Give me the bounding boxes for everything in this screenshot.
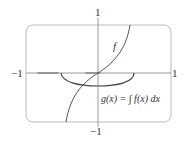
g-formula-prefix: g(x) = [101, 93, 129, 105]
y-max-label: 1 [95, 6, 101, 18]
x-min-label: −1 [11, 67, 23, 79]
g-formula-label: g(x) = ∫ f(x) dx [101, 93, 160, 105]
y-min-label: −1 [90, 125, 102, 137]
x-max-label: 1 [172, 67, 178, 79]
f-label: f [113, 40, 118, 52]
integral-figure: −1 1 1 −1 f g(x) = ∫ f(x) dx [0, 0, 185, 142]
g-formula-body: f(x) dx [132, 93, 161, 105]
